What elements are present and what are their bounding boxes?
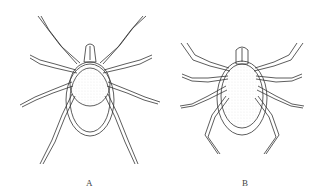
tick-a-drawing — [20, 16, 160, 164]
tick-figure: A B — [0, 0, 322, 193]
panel-label-a: A — [86, 178, 93, 188]
tick-drawings — [0, 0, 322, 193]
panel-label-b: B — [242, 178, 248, 188]
tick-b-drawing — [180, 43, 304, 154]
